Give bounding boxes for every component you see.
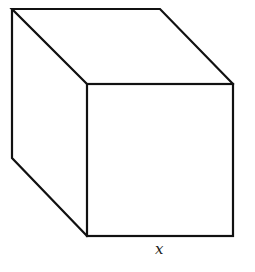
edge-length-label: x bbox=[155, 242, 163, 257]
cube-diagram bbox=[0, 0, 255, 272]
cube-top-face bbox=[12, 9, 233, 84]
cube-left-face bbox=[12, 9, 87, 236]
cube-front-face bbox=[87, 84, 233, 236]
